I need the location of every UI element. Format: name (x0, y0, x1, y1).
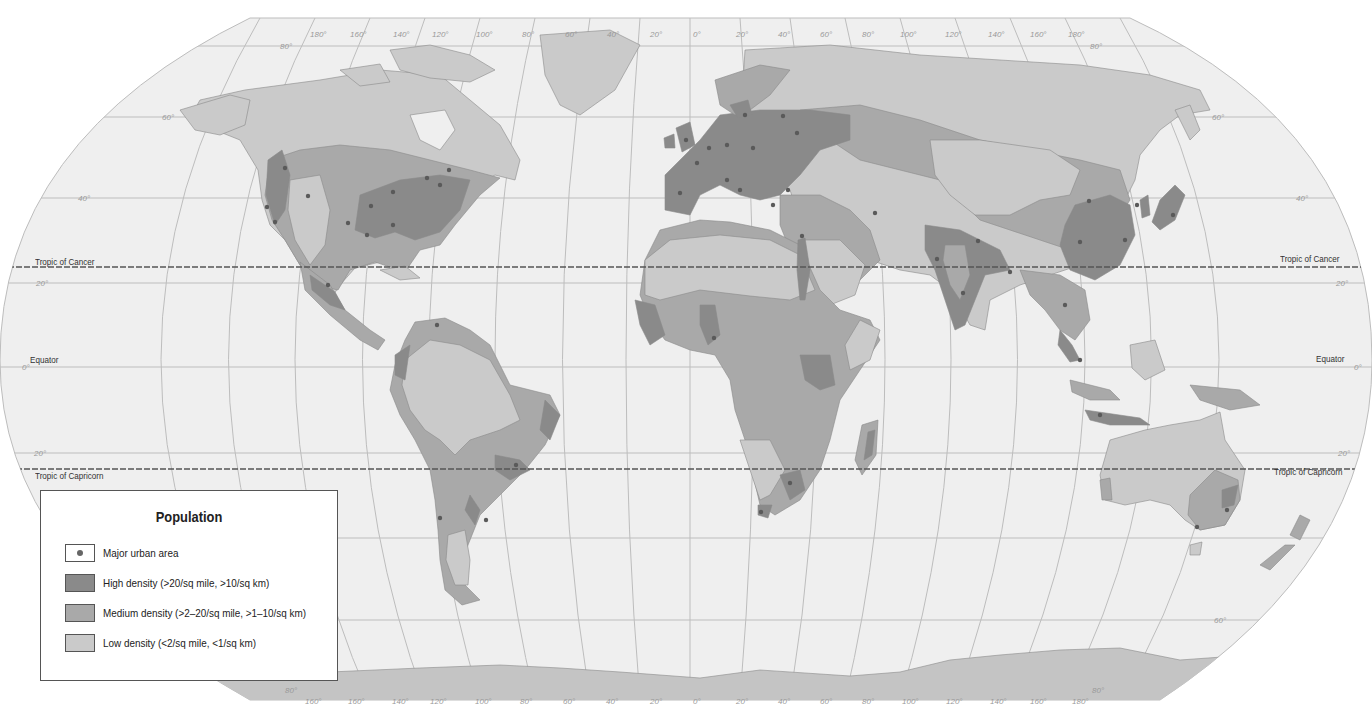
lon-label-top: 100° (900, 30, 917, 39)
lon-label-bottom: 160° (1030, 697, 1047, 706)
lat-label-60n-right: 60° (1212, 113, 1224, 122)
lon-label-top: 140° (988, 30, 1005, 39)
equator-label-left: Equator (30, 355, 58, 365)
lon-label-bottom: 80° (520, 697, 532, 706)
lon-label-top: 80° (522, 30, 534, 39)
lon-label-top: 40° (607, 30, 619, 39)
lat-label-40n-right: 40° (1296, 194, 1308, 203)
lon-label-bottom: 100° (475, 697, 492, 706)
lat-label-0-left: 0° (22, 363, 30, 372)
lon-label-bottom: 140° (990, 697, 1007, 706)
map-legend: Population Major urban area High density… (40, 490, 338, 681)
legend-item-urban: Major urban area (65, 543, 187, 563)
lon-label-bottom: 100° (902, 697, 919, 706)
lon-label-bottom: 120° (430, 697, 447, 706)
lon-label-bottom: 20° (736, 697, 748, 706)
lat-label-60n-left: 60° (162, 113, 174, 122)
tropic-of-capricorn-label-right: Tropic of Capricorn (1274, 467, 1343, 477)
lon-label-bottom: 60° (820, 697, 832, 706)
lon-label-bottom: 40° (606, 697, 618, 706)
lon-label-bottom: 180° (1072, 697, 1089, 706)
legend-item-low: Low density (<2/sq mile, <1/sq km) (65, 633, 273, 653)
lon-label-top: 120° (432, 30, 449, 39)
lon-label-top: 120° (945, 30, 962, 39)
legend-item-medium: Medium density (>2–20/sq mile, >1–10/sq … (65, 603, 329, 623)
medium-density-swatch-icon (65, 604, 95, 622)
lon-label-top: 40° (778, 30, 790, 39)
lat-label-60s-right: 60° (1214, 616, 1226, 625)
urban-dot-swatch-icon (65, 544, 95, 562)
lat-label-80s-right: 80° (1092, 686, 1104, 695)
lat-label-80n-left: 80° (280, 42, 292, 51)
lon-label-bottom: 40° (778, 697, 790, 706)
lon-label-top: 160° (1030, 30, 1047, 39)
legend-label: Major urban area (103, 547, 178, 559)
lon-label-top: 60° (565, 30, 577, 39)
legend-label: Low density (<2/sq mile, <1/sq km) (103, 637, 256, 649)
legend-title: Population (53, 509, 325, 525)
lon-label-bottom: 80° (862, 697, 874, 706)
legend-item-high: High density (>20/sq mile, >10/sq km) (65, 573, 288, 593)
legend-label: High density (>20/sq mile, >10/sq km) (103, 577, 269, 589)
legend-label: Medium density (>2–20/sq mile, >1–10/sq … (103, 607, 306, 619)
lat-label-0-right: 0° (1354, 363, 1362, 372)
lon-label-bottom: 60° (563, 697, 575, 706)
lon-label-bottom: 120° (946, 697, 963, 706)
lon-label-bottom: 140° (392, 697, 409, 706)
lon-label-top: 0° (693, 30, 701, 39)
lon-label-bottom: 20° (650, 697, 662, 706)
tropic-of-capricorn-label-left: Tropic of Capricorn (35, 471, 104, 481)
lon-label-top: 20° (650, 30, 662, 39)
lon-label-top: 80° (862, 30, 874, 39)
lon-label-top: 140° (393, 30, 410, 39)
lat-label-40n-left: 40° (78, 194, 90, 203)
low-density-swatch-icon (65, 634, 95, 652)
lon-label-top: 60° (820, 30, 832, 39)
tropic-of-cancer-label-right: Tropic of Cancer (1280, 254, 1340, 264)
lon-label-bottom: 0° (693, 697, 701, 706)
lon-label-bottom: 160° (305, 697, 322, 706)
lon-label-top: 180° (1068, 30, 1085, 39)
lat-label-20s-left: 20° (34, 449, 46, 458)
lon-label-top: 20° (736, 30, 748, 39)
equator-label-right: Equator (1316, 354, 1344, 364)
lon-label-top: 160° (350, 30, 367, 39)
high-density-swatch-icon (65, 574, 95, 592)
lat-label-20n-left: 20° (36, 279, 48, 288)
tropic-of-cancer-label-left: Tropic of Cancer (35, 257, 95, 267)
lon-label-top: 100° (476, 30, 493, 39)
lon-label-bottom: 160° (348, 697, 365, 706)
lat-label-20s-right: 20° (1338, 449, 1350, 458)
lon-label-top: 180° (310, 30, 327, 39)
lat-label-20n-right: 20° (1336, 279, 1348, 288)
lat-label-80n-right: 80° (1090, 42, 1102, 51)
lat-label-80s-left: 80° (285, 686, 297, 695)
